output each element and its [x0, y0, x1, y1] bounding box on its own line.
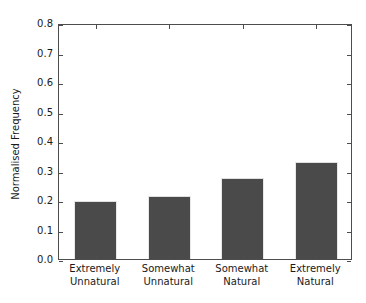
x-tick-label: ExtremelyUnnatural	[58, 263, 132, 288]
y-tick-mark	[59, 55, 63, 56]
x-tick-mark	[243, 255, 244, 259]
y-tick-mark	[59, 202, 63, 203]
x-tick-label-line: Natural	[205, 276, 279, 289]
y-tick-mark	[347, 114, 351, 115]
x-tick-mark	[96, 255, 97, 259]
bar-chart-figure: Normalised Frequency 0.00.10.20.30.40.50…	[0, 0, 366, 303]
bar	[295, 162, 338, 259]
y-tick-mark	[347, 202, 351, 203]
bar	[221, 178, 264, 259]
y-tick-mark	[59, 143, 63, 144]
x-tick-mark	[316, 25, 317, 29]
y-tick-mark	[347, 25, 351, 26]
y-axis-title: Normalised Frequency	[8, 24, 24, 264]
y-tick-mark	[347, 84, 351, 85]
x-tick-label: SomewhatNatural	[205, 263, 279, 288]
y-tick-mark	[347, 55, 351, 56]
y-tick-mark	[59, 25, 63, 26]
y-tick-label: 0.2	[24, 196, 53, 206]
y-tick-mark	[59, 261, 63, 262]
x-tick-label-line: Unnatural	[132, 276, 206, 289]
y-tick-label: 0.7	[24, 49, 53, 59]
x-tick-label-line: Extremely	[279, 263, 353, 276]
x-tick-mark	[96, 25, 97, 29]
y-tick-label: 0.4	[24, 137, 53, 147]
x-tick-label-line: Extremely	[58, 263, 132, 276]
x-tick-mark	[169, 25, 170, 29]
y-tick-mark	[59, 232, 63, 233]
y-tick-mark	[59, 173, 63, 174]
y-tick-label: 0.1	[24, 226, 53, 236]
x-tick-label-line: Somewhat	[205, 263, 279, 276]
y-tick-label: 0.8	[24, 19, 53, 29]
x-tick-mark	[169, 255, 170, 259]
x-tick-label-line: Somewhat	[132, 263, 206, 276]
y-tick-mark	[347, 173, 351, 174]
y-tick-label: 0.6	[24, 78, 53, 88]
bar	[74, 201, 117, 259]
y-tick-label: 0.3	[24, 167, 53, 177]
y-tick-mark	[347, 143, 351, 144]
x-tick-label-line: Natural	[279, 276, 353, 289]
x-tick-label: SomewhatUnnatural	[132, 263, 206, 288]
y-tick-mark	[347, 232, 351, 233]
plot-area	[58, 24, 352, 260]
x-axis-tick-labels: ExtremelyUnnaturalSomewhatUnnaturalSomew…	[58, 263, 352, 303]
x-tick-label: ExtremelyNatural	[279, 263, 353, 288]
x-tick-mark	[316, 255, 317, 259]
y-tick-mark	[59, 114, 63, 115]
y-tick-label: 0.0	[24, 255, 53, 265]
y-tick-mark	[347, 261, 351, 262]
x-tick-mark	[243, 25, 244, 29]
bar	[148, 196, 191, 259]
x-tick-label-line: Unnatural	[58, 276, 132, 289]
y-tick-label: 0.5	[24, 108, 53, 118]
y-tick-mark	[59, 84, 63, 85]
